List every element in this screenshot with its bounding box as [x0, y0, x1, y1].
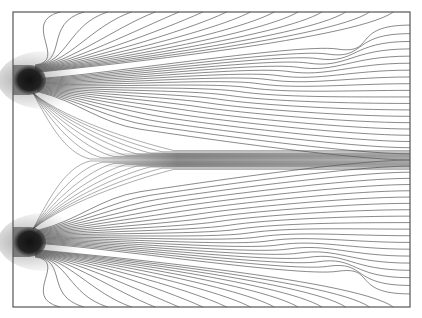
- field-line-figure: [0, 0, 422, 318]
- upper-source: [13, 65, 46, 95]
- central-convergence-band: [100, 153, 410, 167]
- sources: [0, 51, 92, 271]
- lower-source: [13, 227, 46, 257]
- field-line-plot: [0, 0, 422, 318]
